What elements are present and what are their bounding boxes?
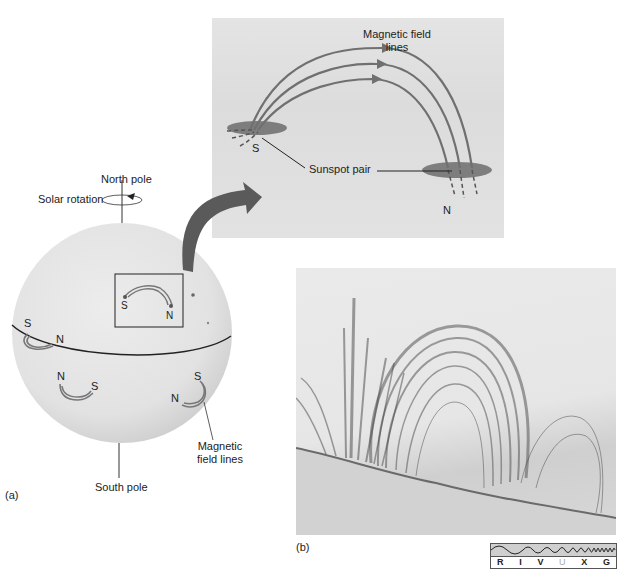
sphere-field-lines-line1: Magnetic (190, 440, 250, 453)
box-n-label: N (166, 309, 173, 322)
left-pair-s-label: S (24, 317, 31, 330)
inset-n-label: N (443, 204, 451, 217)
solar-rotation-ellipse (102, 195, 142, 205)
right-pair-s-label: S (194, 370, 201, 383)
spectrum-bands: R I V U X G (491, 557, 616, 568)
north-pole-label: North pole (101, 173, 152, 186)
rotation-arrowhead-icon (127, 193, 135, 200)
inset-field-lines-line1: Magnetic field (337, 28, 457, 41)
spectrum-band-indicator: R I V U X G (490, 543, 617, 569)
south-pole-label: South pole (95, 481, 148, 494)
spectrum-wave (491, 544, 616, 557)
band-i: I (519, 557, 522, 568)
left-pair-n-label: N (56, 333, 64, 346)
inset-field-lines-line2: lines (337, 41, 457, 54)
right-pair-n-label: N (171, 392, 179, 405)
center-pair-s-label: S (91, 380, 98, 393)
sunspot-pair-inset: Magnetic field lines S Sunspot pair N (212, 18, 504, 238)
sphere-field-lines-label: Magnetic field lines (190, 440, 250, 466)
band-r: R (497, 557, 504, 568)
panel-a-label: (a) (5, 489, 18, 502)
solar-rotation-label: Solar rotation (38, 193, 103, 206)
sun-sphere (12, 223, 232, 443)
sunspot-n (422, 162, 492, 178)
band-v: V (537, 557, 543, 568)
band-g: G (603, 557, 610, 568)
sunspot-pair-label: Sunspot pair (309, 163, 371, 176)
sphere-field-lines-line2: field lines (190, 453, 250, 466)
coronal-loops-illustration (296, 268, 616, 535)
band-u: U (559, 557, 566, 568)
box-s-label: S (121, 299, 128, 312)
center-pair-n-label: N (57, 370, 65, 383)
wave-icon (491, 544, 616, 556)
coronal-loops-photo (296, 268, 616, 535)
band-x: X (581, 557, 587, 568)
inset-field-lines-label: Magnetic field lines (337, 28, 457, 54)
inset-s-label: S (252, 142, 259, 155)
panel-b-label: (b) (296, 541, 309, 554)
equator-line (12, 325, 231, 355)
